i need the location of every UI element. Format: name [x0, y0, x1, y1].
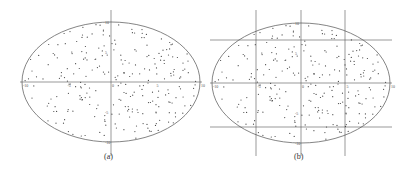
data-point [165, 94, 166, 95]
data-point [99, 132, 100, 133]
data-point [156, 73, 157, 74]
data-point [289, 67, 290, 68]
data-point [354, 79, 355, 80]
data-point [354, 61, 355, 62]
data-point [359, 113, 360, 114]
data-point [294, 75, 295, 76]
data-point [240, 99, 241, 100]
data-point [309, 100, 310, 101]
data-point [115, 77, 116, 78]
x-tick-label: -10 [23, 83, 28, 88]
data-point [141, 37, 142, 38]
data-point [271, 98, 272, 99]
data-point [359, 43, 360, 44]
data-point [64, 119, 65, 120]
data-point [174, 69, 175, 70]
data-point [48, 103, 49, 104]
data-point [152, 101, 153, 102]
data-point [307, 76, 308, 77]
data-point [244, 55, 245, 56]
data-point [98, 48, 99, 49]
points-b [215, 25, 387, 140]
data-point [294, 116, 295, 117]
data-point [188, 72, 189, 73]
data-point [316, 94, 317, 95]
data-point [146, 124, 147, 125]
data-point [344, 59, 345, 60]
data-point [36, 76, 37, 77]
data-point [322, 96, 323, 97]
data-point [86, 59, 87, 60]
data-point [104, 74, 105, 75]
data-point [282, 34, 283, 35]
data-point [355, 95, 356, 96]
data-point [339, 131, 340, 132]
data-point [168, 93, 169, 94]
x-tick-label: -10 [213, 84, 218, 89]
data-point [136, 50, 137, 51]
data-point [294, 136, 295, 137]
data-point [271, 136, 272, 137]
data-point [190, 105, 191, 106]
data-point [82, 27, 83, 28]
data-point [289, 133, 290, 134]
panel-b: -10-50510105-5-10 [210, 10, 395, 156]
data-point [258, 132, 259, 133]
data-point [317, 111, 318, 112]
data-point [271, 88, 272, 89]
data-point [182, 63, 183, 64]
data-point [84, 84, 85, 85]
data-point [72, 111, 73, 112]
data-point [141, 29, 142, 30]
data-point [170, 73, 171, 74]
data-point [377, 54, 378, 55]
data-point [295, 126, 296, 127]
data-point [275, 77, 276, 78]
data-point [262, 54, 263, 55]
data-point [130, 96, 131, 97]
data-point [69, 31, 70, 32]
data-point [183, 96, 184, 97]
data-point [56, 96, 57, 97]
data-point [298, 73, 299, 74]
data-point [155, 125, 156, 126]
data-point [346, 74, 347, 75]
caption-b: (b) [294, 152, 303, 161]
data-point [175, 116, 176, 117]
data-point [246, 97, 247, 98]
data-point [87, 37, 88, 38]
data-point [303, 105, 304, 106]
data-point [99, 66, 100, 67]
data-point [123, 72, 124, 73]
data-point [61, 72, 62, 73]
data-point [313, 93, 314, 94]
data-point [331, 30, 332, 31]
data-point [258, 110, 259, 111]
data-point [146, 45, 147, 46]
data-point [276, 53, 277, 54]
data-point [325, 65, 326, 66]
data-point [187, 53, 188, 54]
data-point [79, 95, 80, 96]
data-point [159, 120, 160, 121]
data-point [131, 29, 132, 30]
data-point [362, 45, 363, 46]
data-point [86, 93, 87, 94]
data-point [115, 123, 116, 124]
data-point [276, 94, 277, 95]
data-point [367, 58, 368, 59]
data-point [243, 112, 244, 113]
data-point [336, 46, 337, 47]
data-point [132, 111, 133, 112]
data-point [142, 113, 143, 114]
data-point [73, 73, 74, 74]
data-point [173, 74, 174, 75]
data-point [358, 94, 359, 95]
data-point [158, 130, 159, 131]
data-point [154, 58, 155, 59]
data-point [365, 98, 366, 99]
data-point [315, 61, 316, 62]
data-point [344, 64, 345, 65]
data-point [318, 107, 319, 108]
data-point [164, 78, 165, 79]
